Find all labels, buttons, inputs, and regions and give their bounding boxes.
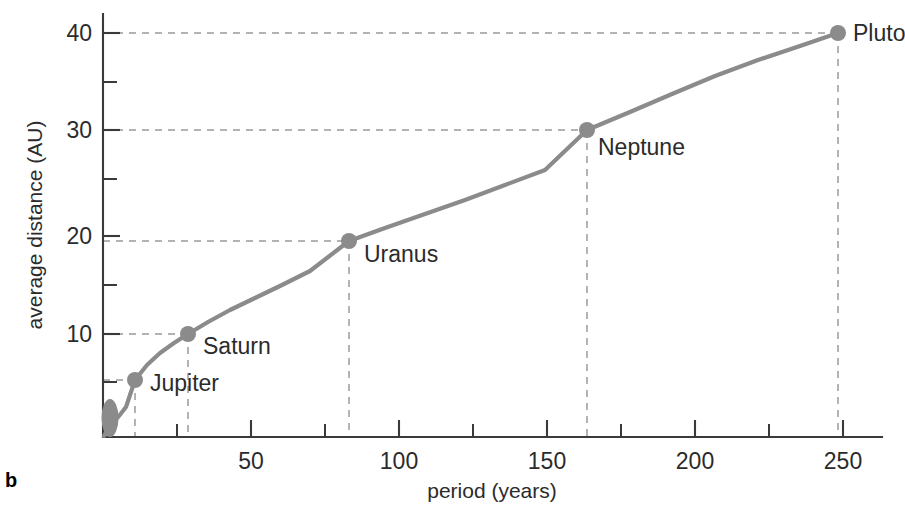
figure-panel-label: b [5,470,17,490]
y-tick-label-20: 20 [66,223,92,249]
marker-jupiter [127,372,143,388]
marker-pluto [830,25,846,41]
orbital-period-distance-chart: 40 30 20 10 50 100 150 200 250 Jupiter S… [0,0,905,505]
marker-uranus [341,233,357,249]
label-neptune: Neptune [598,134,685,160]
y-axis-ticks [103,33,120,382]
figure-container: 40 30 20 10 50 100 150 200 250 Jupiter S… [0,0,905,505]
y-tick-label-40: 40 [66,20,92,46]
label-uranus: Uranus [364,241,438,267]
marker-saturn [180,326,196,342]
y-axis-tick-labels: 40 30 20 10 [66,20,92,347]
x-tick-label-250: 250 [824,448,862,474]
x-tick-label-200: 200 [676,448,714,474]
label-saturn: Saturn [203,333,271,359]
marker-neptune [579,122,595,138]
data-point-labels: Jupiter Saturn Uranus Neptune Pluto [150,20,905,396]
y-tick-label-30: 30 [66,117,92,143]
x-axis-ticks [177,420,843,437]
x-tick-label-150: 150 [528,448,566,474]
label-jupiter: Jupiter [150,370,219,396]
y-axis-title: average distance (AU) [23,121,46,330]
y-tick-label-10: 10 [66,321,92,347]
x-axis-tick-labels: 50 100 150 200 250 [238,448,862,474]
marker-inner-planets-cluster [102,399,119,437]
x-tick-label-50: 50 [238,448,264,474]
x-axis-title: period (years) [427,479,557,502]
x-tick-label-100: 100 [380,448,418,474]
label-pluto: Pluto [853,20,905,46]
axes [103,14,882,437]
